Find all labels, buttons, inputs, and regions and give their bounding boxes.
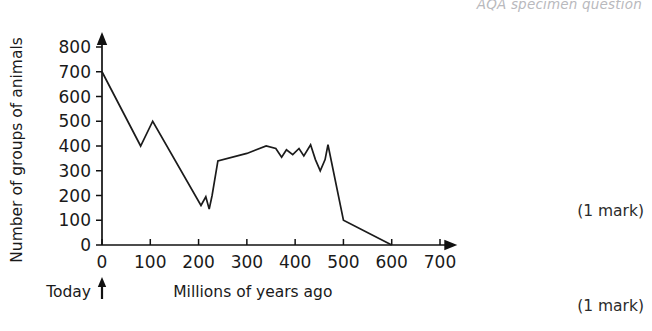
y-tick-label: 200 <box>59 186 91 206</box>
x-axis-title: Millions of years ago <box>173 283 332 301</box>
data-series <box>102 72 392 245</box>
x-tick-label: 200 <box>182 252 214 272</box>
y-tick-label: 800 <box>59 37 91 57</box>
x-tick-label: 500 <box>327 252 359 272</box>
y-tick-label: 400 <box>59 136 91 156</box>
x-tick-label: 0 <box>97 252 108 272</box>
x-tick-label: 400 <box>279 252 311 272</box>
line-chart-figure: 0100200300400500600700800 01002003004005… <box>0 0 500 331</box>
y-axis-ticks: 0100200300400500600700800 <box>59 37 102 255</box>
y-axis-title: Number of groups of animals <box>8 37 26 263</box>
mark-allocation-1: (1 mark) <box>577 202 644 220</box>
x-axis-arrow <box>444 240 457 250</box>
y-tick-label: 500 <box>59 111 91 131</box>
chart-canvas: 0100200300400500600700800 01002003004005… <box>0 0 500 331</box>
y-tick-label: 100 <box>59 210 91 230</box>
question-page: AQA specimen question 010020030040050060… <box>0 0 652 331</box>
y-axis-arrow <box>97 32 107 45</box>
x-tick-label: 300 <box>231 252 263 272</box>
y-tick-label: 0 <box>80 235 91 255</box>
x-tick-label: 600 <box>375 252 407 272</box>
x-tick-label: 100 <box>134 252 166 272</box>
y-axis <box>97 32 107 245</box>
y-tick-label: 600 <box>59 87 91 107</box>
data-line <box>102 72 392 245</box>
today-label: Today <box>45 283 91 301</box>
x-axis-ticks: 0100200300400500600700 <box>97 239 457 272</box>
specimen-question-note: AQA specimen question <box>477 0 642 12</box>
x-tick-label: 700 <box>424 252 456 272</box>
y-tick-label: 700 <box>59 62 91 82</box>
x-axis <box>102 240 457 250</box>
y-tick-label: 300 <box>59 161 91 181</box>
mark-allocation-2: (1 mark) <box>577 297 644 315</box>
today-arrow-icon <box>98 277 106 299</box>
